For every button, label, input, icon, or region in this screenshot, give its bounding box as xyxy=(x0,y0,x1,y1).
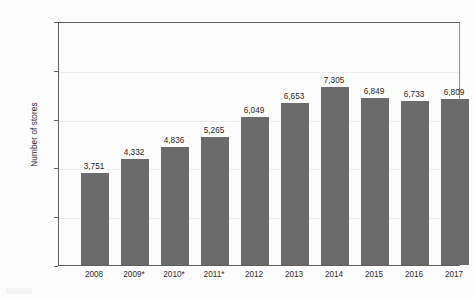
x-axis-tick-label: 2016 xyxy=(392,270,436,279)
bar-value-label: 6,049 xyxy=(232,106,276,115)
bar xyxy=(321,87,349,265)
bar xyxy=(241,117,269,265)
x-axis-tick-label: 2017 xyxy=(432,270,474,279)
bar-value-label: 3,751 xyxy=(72,162,116,171)
bar xyxy=(121,159,149,265)
bar-value-label: 6,653 xyxy=(272,92,316,101)
bar xyxy=(281,103,309,265)
x-axis-tick-label: 2012 xyxy=(232,270,276,279)
bar xyxy=(441,99,469,265)
y-axis-title: Number of stores xyxy=(30,55,39,215)
bar xyxy=(161,147,189,265)
bar-value-label: 6,809 xyxy=(432,88,474,97)
bar-value-label: 6,733 xyxy=(392,90,436,99)
y-axis-tick-mark xyxy=(54,266,58,267)
bar-chart-figure: Number of stores 02,0004,0006,0008,00010… xyxy=(0,0,474,299)
gridline xyxy=(59,72,459,73)
bar-value-label: 7,305 xyxy=(312,76,356,85)
bar xyxy=(201,137,229,265)
x-axis-tick-label: 2015 xyxy=(352,270,396,279)
x-axis-tick-label: 2010* xyxy=(152,270,196,279)
x-axis-tick-label: 2009* xyxy=(112,270,156,279)
bar-value-label: 5,265 xyxy=(192,126,236,135)
bar xyxy=(81,173,109,265)
scan-artifact xyxy=(6,288,32,294)
bar xyxy=(361,98,389,265)
plot-area xyxy=(58,22,460,266)
x-axis-tick-label: 2014 xyxy=(312,270,356,279)
x-axis-tick-label: 2011* xyxy=(192,270,236,279)
bar-value-label: 6,849 xyxy=(352,87,396,96)
x-axis-tick-label: 2008 xyxy=(72,270,116,279)
bar-value-label: 4,332 xyxy=(112,148,156,157)
bar-value-label: 4,836 xyxy=(152,136,196,145)
bar xyxy=(401,101,429,265)
x-axis-tick-label: 2013 xyxy=(272,270,316,279)
